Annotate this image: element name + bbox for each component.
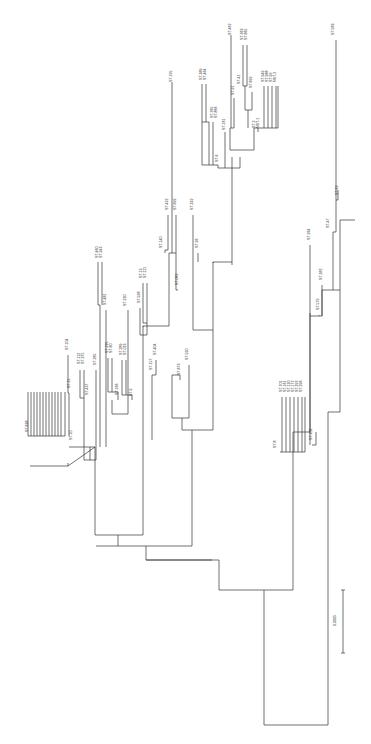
leaf-label: ST-8 xyxy=(273,440,277,448)
leaf-label: ST-10 xyxy=(69,430,73,440)
leaf-label: ST-404 xyxy=(153,343,157,355)
leaf-label: ST-023 xyxy=(123,343,127,355)
leaf-label: ST-104 xyxy=(65,338,69,350)
tree-branch xyxy=(68,447,95,466)
leaf-labels: ST-638ST-10ST-15ST-104ST-112ST-375ST-437… xyxy=(25,23,339,448)
leaf-label: ST-583 xyxy=(331,23,335,35)
leaf-label: ST-332 xyxy=(190,198,194,210)
leaf-label: ST-375 xyxy=(81,352,85,364)
leaf-label: ST-15 xyxy=(67,378,71,388)
leaf-label: ST-91 xyxy=(231,85,235,95)
leaf-label: ST-9 xyxy=(129,388,133,396)
leaf-label: ST-437 xyxy=(85,383,89,395)
leaf-label: ST-111 xyxy=(143,267,147,278)
leaf-label: ST-432 xyxy=(165,198,169,210)
leaf-branches xyxy=(28,35,338,460)
leaf-label: ST-598 xyxy=(137,291,141,303)
leaf-label: ST-63 xyxy=(335,185,339,195)
leaf-label: ST-6 xyxy=(215,154,219,162)
leaf-label: ST-230 xyxy=(123,294,127,306)
leaf-label: ST-157 xyxy=(149,358,153,370)
leaf-label: ST-265 xyxy=(93,353,97,365)
leaf-label: ST-481 xyxy=(103,293,107,305)
leaf-label: ST-865 xyxy=(244,28,248,40)
leaf-label: ST-866 xyxy=(214,106,218,118)
leaf-label: NST-1 xyxy=(256,118,260,128)
phylogenetic-tree-figure: ST-638ST-10ST-15ST-104ST-112ST-375ST-437… xyxy=(0,0,371,744)
tree-branches xyxy=(30,157,355,725)
leaf-label: ST-41 xyxy=(237,74,241,84)
leaf-label: ST-699 xyxy=(249,76,253,88)
leaf-label: ST-166 xyxy=(115,383,119,395)
scale-bar-label: 0.0005 xyxy=(333,615,337,626)
scale-bar: 0.0005 xyxy=(333,590,345,653)
leaf-label: ST-343 xyxy=(99,246,103,258)
leaf-label: NST-2 xyxy=(273,72,277,82)
leaf-label: ST-464 xyxy=(203,68,207,80)
leaf-label: ST-205 xyxy=(309,428,313,440)
leaf-label: ST-140 xyxy=(159,236,163,248)
leaf-label: ST-590 xyxy=(185,348,189,360)
leaf-label: ST-161 xyxy=(222,118,226,130)
leaf-label: ST-462 xyxy=(228,23,232,35)
leaf-label: ST-47 xyxy=(326,218,330,228)
leaf-label: ST-673 xyxy=(177,363,181,375)
leaf-label: ST-36 xyxy=(195,238,199,248)
leaf-label: ST-60 xyxy=(109,343,113,353)
leaf-label: ST-296 xyxy=(299,380,303,392)
leaf-label: ST-264 xyxy=(307,228,311,240)
tree-canvas: ST-638ST-10ST-15ST-104ST-112ST-375ST-437… xyxy=(0,0,371,744)
leaf-label: ST-579 xyxy=(316,298,320,310)
leaf-label: ST-195 xyxy=(169,70,173,82)
leaf-label: ST-382 xyxy=(319,268,323,280)
leaf-label: ST-699 xyxy=(173,198,177,210)
leaf-label: ST-062 xyxy=(175,273,179,285)
leaf-label: ST-638 xyxy=(25,420,29,432)
